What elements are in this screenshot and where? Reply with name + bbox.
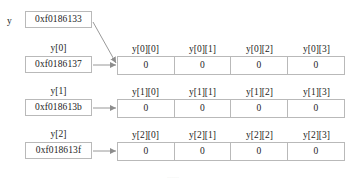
array-header-cell: y[0][3] [288,43,345,55]
array-row-2: 0 0 0 0 [117,142,345,161]
array-header-cell: y[1][1] [174,86,231,98]
array-header-row-0: y[0][0] y[0][1] y[0][2] y[0][3] [117,43,345,55]
array-cell: 0 [288,57,345,74]
pointer-box-y1: 0xf018613b [25,99,92,116]
array-header-cell: y[1][3] [288,86,345,98]
pointer-box-y0: 0xf0186137 [25,56,92,73]
root-pointer-box: 0xf0186133 [25,11,92,28]
root-variable-label: y [7,17,12,27]
array-header-row-2: y[2][0] y[2][1] y[2][2] y[2][3] [117,129,345,141]
array-cell: 0 [231,143,288,160]
array-cell: 0 [288,143,345,160]
array-header-row-1: y[1][0] y[1][1] y[1][2] y[1][3] [117,86,345,98]
array-row-1: 0 0 0 0 [117,99,345,118]
array-header-cell: y[2][0] [117,129,174,141]
array-header-cell: y[1][2] [231,86,288,98]
array-header-cell: y[1][0] [117,86,174,98]
array-header-cell: y[0][1] [174,43,231,55]
pointer-label-y1: y[1] [25,87,92,97]
root-pointer-value: 0xf0186133 [35,15,82,25]
array-header-cell: y[0][2] [231,43,288,55]
array-header-cell: y[2][2] [231,129,288,141]
pointer-value-y0: 0xf0186137 [35,60,82,70]
array-cell: 0 [231,100,288,117]
array-cell: 0 [175,100,232,117]
array-cell: 0 [231,57,288,74]
array-header-cell: y[2][1] [174,129,231,141]
pointer-box-y2: 0xf018613f [25,142,92,159]
array-row-0: 0 0 0 0 [117,56,345,75]
array-header-cell: y[0][0] [117,43,174,55]
array-cell: 0 [175,143,232,160]
arrow-root-to-row0 [93,22,116,63]
pointer-value-y1: 0xf018613b [35,103,82,113]
figure-caption-partial: ...... [78,171,268,181]
array-cell: 0 [118,143,175,160]
array-cell: 0 [118,100,175,117]
array-cell: 0 [288,100,345,117]
array-header-cell: y[2][3] [288,129,345,141]
pointer-value-y2: 0xf018613f [36,146,81,156]
pointer-label-y2: y[2] [25,130,92,140]
array-cell: 0 [175,57,232,74]
pointer-label-y0: y[0] [25,44,92,54]
array-cell: 0 [118,57,175,74]
